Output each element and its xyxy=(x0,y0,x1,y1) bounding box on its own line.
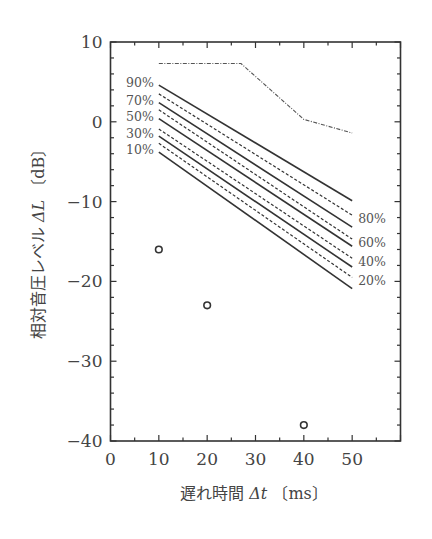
percentile-label: 40% xyxy=(358,254,386,269)
x-tick-label: 40 xyxy=(293,449,315,469)
percentile-label: 60% xyxy=(358,235,386,250)
x-axis-title-symbol: Δt xyxy=(248,484,268,503)
series-line-50- xyxy=(159,119,352,247)
series-line-10- xyxy=(159,152,352,288)
measured-points xyxy=(156,246,308,428)
chart: 01020304050 100−10−20−30−40 90%80%70%60%… xyxy=(0,0,432,539)
percentile-label: 70% xyxy=(126,93,154,108)
y-axis-title: 相対音圧レベル ΔL 〔dB〕 xyxy=(29,141,48,339)
percentile-label: 90% xyxy=(126,75,154,90)
series-line-70- xyxy=(159,103,352,227)
x-tick-label: 20 xyxy=(196,449,218,469)
x-tick-label: 30 xyxy=(245,449,267,469)
x-tick-label: 0 xyxy=(105,449,116,469)
measured-point-marker xyxy=(156,246,163,253)
y-tick-label: −20 xyxy=(67,271,103,291)
percentile-label: 80% xyxy=(358,211,386,226)
y-tick-label: 10 xyxy=(81,32,103,52)
plot-border xyxy=(111,42,401,441)
percentile-label: 10% xyxy=(126,142,154,157)
x-axis-title-unit: 〔ms〕 xyxy=(272,484,327,503)
y-tick-label: 0 xyxy=(92,112,103,132)
percentile-label: 50% xyxy=(126,109,154,124)
plot-frame xyxy=(111,42,401,441)
x-axis-title: 遅れ時間 Δt 〔ms〕 xyxy=(180,484,328,503)
x-axis-title-jp: 遅れ時間 xyxy=(180,484,244,503)
percentile-label: 20% xyxy=(358,273,386,288)
x-tick-label: 10 xyxy=(148,449,170,469)
measured-point-marker xyxy=(301,422,308,429)
x-tick-label: 50 xyxy=(341,449,363,469)
y-axis-ticks: 100−10−20−30−40 xyxy=(67,32,401,451)
y-axis-title-jp: 相対音圧レベル xyxy=(29,227,48,339)
y-axis-title-symbol: ΔL xyxy=(29,200,48,223)
series-line-upper-limit xyxy=(159,64,352,133)
y-axis-title-unit: 〔dB〕 xyxy=(29,141,48,195)
measured-point-marker xyxy=(204,302,211,309)
series-lines xyxy=(159,64,352,289)
percentile-label: 30% xyxy=(126,126,154,141)
series-line-80- xyxy=(159,94,352,215)
series-line-40- xyxy=(159,129,352,258)
series-line-90- xyxy=(159,85,352,201)
series-line-30- xyxy=(159,136,352,267)
y-tick-label: −40 xyxy=(67,431,103,451)
y-tick-label: −10 xyxy=(67,192,103,212)
series-line-20- xyxy=(159,143,352,277)
y-tick-label: −30 xyxy=(67,351,103,371)
